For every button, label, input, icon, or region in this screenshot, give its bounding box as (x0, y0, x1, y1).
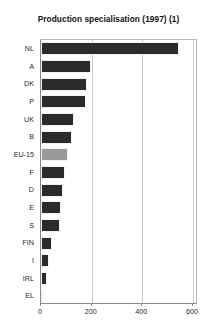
bar-row (41, 42, 196, 55)
bar-d (41, 184, 63, 197)
bar-s (41, 219, 60, 232)
y-tick-label-fin: FIN (22, 238, 34, 247)
y-tick-label-dk: DK (24, 79, 34, 88)
chart-title: Production specialisation (1997) (1) (0, 14, 217, 24)
y-tick-label-nl: NL (25, 43, 34, 52)
x-tick-mark-600 (192, 303, 193, 306)
y-tick-label-p: P (29, 96, 34, 105)
y-tick-label-b: B (29, 132, 34, 141)
bar-row (41, 60, 196, 73)
bar-row (41, 290, 196, 303)
bar-row (41, 201, 196, 214)
bar-irl (41, 272, 47, 285)
x-tick-mark-0 (40, 303, 41, 306)
y-tick-label-a: A (29, 61, 34, 70)
bar-row (41, 131, 196, 144)
bar-a (41, 60, 91, 73)
bar-dk (41, 78, 87, 91)
y-tick-label-d: D (29, 185, 34, 194)
y-tick-label-el: EL (25, 291, 34, 300)
bar-row (41, 95, 196, 108)
y-tick-label-f: F (30, 167, 34, 176)
y-tick-label-e: E (29, 202, 34, 211)
y-tick-label-i: I (32, 255, 34, 264)
y-tick-label-eu-15: EU-15 (14, 149, 34, 158)
bar-row (41, 166, 196, 179)
x-axis-labels: 0200400600 (40, 307, 197, 323)
x-tick-mark-200 (91, 303, 92, 306)
bar-row (41, 219, 196, 232)
y-tick-label-irl: IRL (23, 273, 34, 282)
x-tick-label-200: 200 (85, 307, 97, 316)
plot-area (40, 39, 197, 304)
bar-i (41, 254, 49, 267)
bar-row (41, 148, 196, 161)
bar-row (41, 78, 196, 91)
bar-b (41, 131, 72, 144)
bar-el (41, 290, 43, 303)
bar-series (41, 40, 196, 303)
bar-eu-15 (41, 148, 68, 161)
y-tick-label-s: S (29, 220, 34, 229)
bar-row (41, 254, 196, 267)
bar-p (41, 95, 86, 108)
bar-row (41, 113, 196, 126)
x-tick-label-600: 600 (186, 307, 198, 316)
bar-e (41, 201, 61, 214)
y-axis-labels: NLADKPUKBEU-15FDESFINIIRLEL (0, 39, 37, 304)
bar-row (41, 184, 196, 197)
x-tick-label-0: 0 (38, 307, 42, 316)
bar-uk (41, 113, 74, 126)
bar-f (41, 166, 65, 179)
bar-nl (41, 42, 179, 55)
y-tick-label-uk: UK (24, 114, 34, 123)
bar-fin (41, 237, 52, 250)
x-tick-label-400: 400 (135, 307, 147, 316)
bar-row (41, 272, 196, 285)
x-tick-mark-400 (141, 303, 142, 306)
chart-figure: Production specialisation (1997) (1) NLA… (0, 0, 217, 330)
bar-row (41, 237, 196, 250)
